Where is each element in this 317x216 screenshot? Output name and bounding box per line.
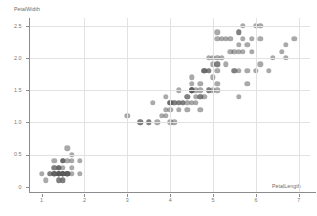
scatter-point <box>60 178 65 183</box>
scatter-point <box>257 36 262 41</box>
scatter-point <box>245 42 250 47</box>
scatter-point <box>266 68 271 73</box>
gridline-vertical <box>256 18 257 192</box>
scatter-point <box>236 94 241 99</box>
x-tick-label: 3 <box>120 197 134 203</box>
y-tick-label: 1.5 <box>6 87 22 93</box>
scatter-point <box>77 158 82 163</box>
scatter-point <box>236 68 241 73</box>
scatter-point <box>176 107 181 112</box>
y-tick-label: 0.5 <box>6 151 22 157</box>
scatter-point <box>245 68 250 73</box>
x-tick-label: 7 <box>292 197 306 203</box>
y-axis-line <box>29 18 30 193</box>
scatter-point <box>150 100 155 105</box>
scatter-point <box>69 171 74 176</box>
scatter-point <box>215 81 220 86</box>
scatter-point <box>202 94 207 99</box>
x-tick-label: 1 <box>35 197 49 203</box>
scatter-point <box>197 81 202 86</box>
gridline-vertical <box>170 18 171 192</box>
x-axis-line <box>29 192 317 193</box>
y-tick-mark <box>26 122 29 123</box>
scatter-point <box>215 68 220 73</box>
scatter-point <box>52 158 57 163</box>
scatter-point <box>279 49 284 54</box>
scatter-point <box>240 49 245 54</box>
scatter-point <box>185 94 190 99</box>
scatter-point <box>292 36 297 41</box>
scatter-point <box>223 62 228 67</box>
scatter-point <box>206 68 211 73</box>
scatter-point <box>215 62 220 67</box>
scatter-point <box>240 36 245 41</box>
scatter-point <box>65 145 70 150</box>
y-tick-mark <box>26 90 29 91</box>
y-tick-mark <box>26 58 29 59</box>
gridline-vertical <box>127 18 128 192</box>
scatter-point <box>60 165 65 170</box>
y-tick-label: 2.5 <box>6 23 22 29</box>
y-tick-label: 1.0 <box>6 119 22 125</box>
x-tick-label: 5 <box>206 197 220 203</box>
scatter-point <box>236 42 241 47</box>
y-tick-mark <box>26 155 29 156</box>
x-tick-label: 2 <box>77 197 91 203</box>
scatter-point <box>227 36 232 41</box>
scatter-point <box>185 107 190 112</box>
scatter-point <box>189 75 194 80</box>
scatter-point <box>236 29 241 34</box>
y-tick-label: 2.0 <box>6 55 22 61</box>
y-tick-mark <box>26 187 29 188</box>
plot-area <box>0 0 316 216</box>
scatter-point <box>69 165 74 170</box>
scatter-point <box>69 158 74 163</box>
scatter-point <box>197 107 202 112</box>
scatter-point <box>249 36 254 41</box>
scatter-point <box>163 113 168 118</box>
gridline-vertical <box>84 18 85 192</box>
y-tick-label: 0 <box>6 184 22 190</box>
scatter-point <box>245 81 250 86</box>
scatter-point <box>193 100 198 105</box>
scatter-point <box>257 62 262 67</box>
y-tick-mark <box>26 26 29 27</box>
scatter-point <box>249 49 254 54</box>
scatter-point <box>77 171 82 176</box>
scatter-point <box>39 171 44 176</box>
scatter-point <box>163 94 168 99</box>
x-tick-label: 4 <box>163 197 177 203</box>
gridline-vertical <box>213 18 214 192</box>
x-tick-label: 6 <box>249 197 263 203</box>
scatter-plot-chart: PetalWidth PetalLength 00.51.01.52.02.51… <box>0 0 316 216</box>
gridline-vertical <box>299 18 300 192</box>
scatter-point <box>43 178 48 183</box>
scatter-point <box>189 81 194 86</box>
scatter-point <box>215 29 220 34</box>
scatter-point <box>283 42 288 47</box>
